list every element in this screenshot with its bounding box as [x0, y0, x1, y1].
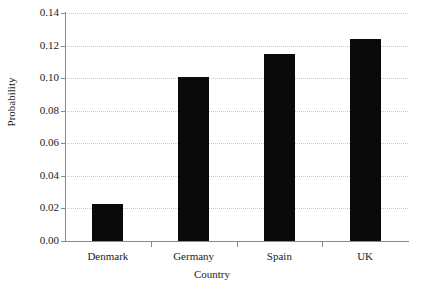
- y-axis-tick-label: 0.12: [23, 40, 59, 51]
- y-axis-title: Probability: [5, 42, 17, 162]
- x-axis-tick-mark: [151, 242, 152, 247]
- x-axis-tick-mark: [237, 242, 238, 247]
- y-axis-tick-mark: [61, 176, 65, 177]
- y-axis-tick-label: 0.04: [23, 170, 59, 181]
- bar: [92, 204, 123, 241]
- bar: [178, 77, 209, 241]
- y-axis-tick-label: 0.02: [23, 202, 59, 213]
- plot-area: [65, 13, 408, 241]
- x-axis-tick-label: Spain: [267, 250, 292, 262]
- y-axis-tick-mark: [61, 241, 65, 242]
- y-axis-tick-labels: 0.000.020.040.060.080.100.120.14: [19, 0, 59, 292]
- bar: [350, 39, 381, 241]
- bar: [264, 54, 295, 241]
- y-axis-tick-mark: [61, 111, 65, 112]
- y-axis-tick-mark: [61, 13, 65, 14]
- y-axis-tick-label: 0.00: [23, 235, 59, 246]
- x-axis-tick-mark: [322, 242, 323, 247]
- y-axis-tick-mark: [61, 143, 65, 144]
- bar-chart: 0.000.020.040.060.080.100.120.14 Probabi…: [0, 0, 424, 292]
- gridline: [65, 13, 408, 14]
- y-axis-line: [65, 12, 66, 242]
- y-axis-tick-label: 0.10: [23, 72, 59, 83]
- x-axis-title: Country: [0, 268, 424, 280]
- x-axis-tick-label: Germany: [173, 250, 214, 262]
- y-axis-tick-mark: [61, 46, 65, 47]
- y-axis-tick-label: 0.06: [23, 137, 59, 148]
- x-axis-tick-label: UK: [357, 250, 373, 262]
- y-axis-tick-mark: [61, 78, 65, 79]
- y-axis-tick-label: 0.08: [23, 105, 59, 116]
- y-axis-tick-label: 0.14: [23, 7, 59, 18]
- y-axis-tick-mark: [61, 208, 65, 209]
- x-axis-tick-label: Denmark: [87, 250, 128, 262]
